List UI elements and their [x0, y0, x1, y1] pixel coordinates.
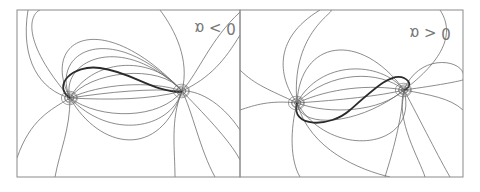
- field-line: [404, 80, 463, 90]
- panel-alpha-negative: 0 > α: [17, 10, 240, 177]
- field-line: [160, 10, 184, 91]
- field-line: [182, 35, 240, 91]
- field-line: [70, 90, 182, 98]
- panel-label: 0 < α: [409, 24, 451, 42]
- field-line: [385, 90, 404, 177]
- field-line: [297, 90, 406, 141]
- field-line: [404, 90, 450, 177]
- panel-label: 0 > α: [194, 19, 236, 37]
- field-line: [182, 91, 240, 160]
- dual-panel-flow-diagram: 0 > α 0 < α: [0, 0, 480, 192]
- field-line: [182, 91, 240, 130]
- field-line: [297, 69, 404, 103]
- field-line: [297, 90, 404, 120]
- field-line: [70, 65, 182, 98]
- field-line: [182, 91, 215, 177]
- field-line: [70, 73, 182, 98]
- field-line: [55, 98, 70, 177]
- field-line: [240, 70, 297, 103]
- panel-alpha-positive: 0 < α: [240, 10, 464, 177]
- field-line: [402, 90, 425, 177]
- field-line: [292, 103, 300, 177]
- field-line: [70, 91, 182, 99]
